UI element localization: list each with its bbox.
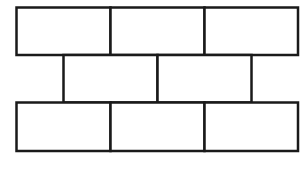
brick-bottom-3 [205, 103, 299, 152]
brick-top-3 [205, 8, 299, 56]
brick-middle-2 [158, 55, 252, 103]
brick-bottom-2 [111, 103, 205, 152]
brick-bottom-1 [17, 103, 111, 152]
brick-middle-1 [64, 55, 158, 103]
brick-top-1 [17, 8, 111, 56]
brick-wall-diagram [0, 0, 305, 172]
brick-top-2 [111, 8, 205, 56]
